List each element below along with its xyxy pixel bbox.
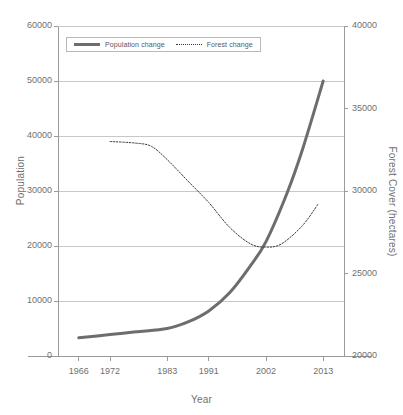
legend-dotted-line-icon (176, 44, 202, 45)
y-axis-right-tick-label: 25000 (352, 268, 396, 278)
x-axis-tick-label: 1991 (186, 366, 232, 376)
series-line-population (79, 81, 323, 338)
x-axis-tick-label: 2002 (243, 366, 289, 376)
legend-item-forest: Forest change (176, 41, 253, 48)
y-axis-left-tick-label: 20000 (8, 240, 52, 250)
legend-label-forest: Forest change (207, 41, 253, 48)
x-axis-tick-label: 1983 (144, 366, 190, 376)
legend-label-population: Population change (105, 41, 165, 48)
chart-plot-area (0, 0, 403, 415)
chart-legend: Population change Forest change (66, 37, 261, 52)
x-axis-tick-label: 2013 (300, 366, 346, 376)
legend-item-population: Population change (74, 41, 165, 48)
axis-ticks (54, 26, 348, 361)
gridlines (58, 26, 344, 301)
y-axis-right-tick-label: 30000 (352, 185, 396, 195)
y-axis-left-tick-label: 0 (8, 350, 52, 360)
x-axis-title: Year (0, 394, 403, 405)
legend-solid-line-icon (74, 43, 100, 46)
y-axis-right-tick-label: 20000 (352, 350, 396, 360)
y-axis-right-tick-label: 35000 (352, 103, 396, 113)
x-axis-tick-label: 1972 (87, 366, 133, 376)
y-axis-right-tick-label: 40000 (352, 20, 396, 30)
data-series (79, 81, 323, 338)
y-axis-left-tick-label: 60000 (8, 20, 52, 30)
y-axis-left-tick-label: 40000 (8, 130, 52, 140)
y-axis-left-tick-label: 30000 (8, 185, 52, 195)
y-axis-left-tick-label: 50000 (8, 75, 52, 85)
y-axis-left-tick-label: 10000 (8, 295, 52, 305)
y-axis-right-title: Forest Cover (hectares) (387, 112, 398, 292)
chart-container: Population Forest Cover (hectares) Year … (0, 0, 403, 415)
